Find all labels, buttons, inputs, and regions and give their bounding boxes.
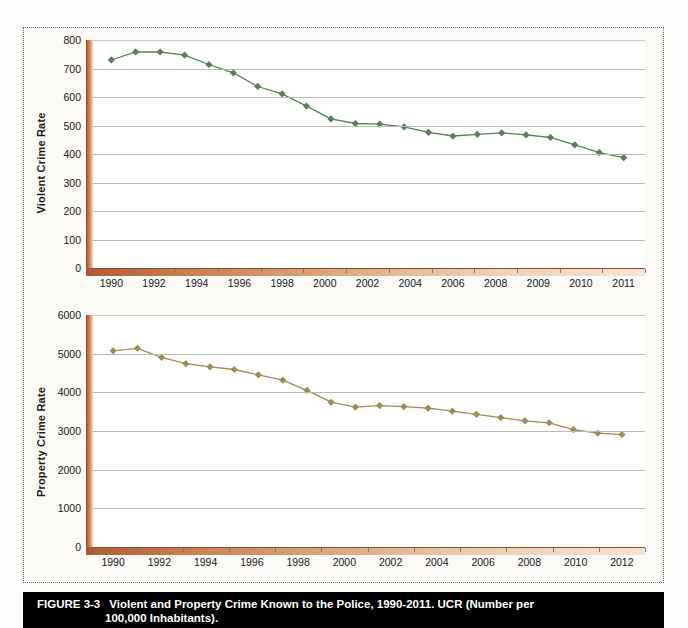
property-y-tick-label: 2000	[58, 464, 81, 476]
violent-data-point	[132, 48, 139, 55]
violent-x-tick-label: 2009	[527, 277, 550, 289]
property-gridline	[90, 315, 645, 316]
property-data-point	[521, 417, 528, 424]
violent-data-point	[254, 83, 261, 90]
violent-gridline	[90, 240, 645, 241]
violent-x-tick-mark	[474, 269, 475, 273]
violent-y-tick-label: 400	[63, 148, 81, 160]
violent-x-tick-label: 1996	[228, 277, 251, 289]
violent-x-tick-labels: 1990199219941996199820002002200420062008…	[90, 277, 645, 293]
property-x-tick-mark	[90, 548, 91, 552]
property-x-tick-label: 1996	[240, 556, 263, 568]
property-x-tick-label: 1998	[286, 556, 309, 568]
violent-crime-chart: Violent Crime Rate 010020030040050060070…	[30, 38, 658, 288]
violent-gridline	[90, 69, 645, 70]
violent-gridline	[90, 154, 645, 155]
violent-x-tick-label: 2010	[569, 277, 592, 289]
property-x-tick-mark	[321, 548, 322, 552]
violent-y-tick-label: 0	[75, 262, 81, 274]
violent-x-tick-label: 2008	[484, 277, 507, 289]
violent-data-point	[425, 129, 432, 136]
figure-number: FIGURE 3-3	[37, 598, 100, 610]
violent-data-point	[327, 115, 334, 122]
property-y-tick-label: 0	[75, 541, 81, 553]
violent-x-tick-mark	[133, 269, 134, 273]
property-x-tick-label: 2008	[518, 556, 541, 568]
property-data-point	[376, 402, 383, 409]
violent-x-tick-mark	[602, 269, 603, 273]
violent-y-tick-label: 300	[63, 177, 81, 189]
property-x-tick-label: 1992	[148, 556, 171, 568]
violent-data-point	[230, 69, 237, 76]
property-x-tick-mark	[553, 548, 554, 552]
figure-page: Violent Crime Rate 010020030040050060070…	[0, 0, 688, 628]
property-data-point	[182, 360, 189, 367]
violent-y-tick-label: 800	[63, 34, 81, 46]
figure-caption: FIGURE 3-3Violent and Property Crime Kno…	[23, 592, 664, 628]
property-data-point	[279, 377, 286, 384]
violent-x-tick-label: 2006	[441, 277, 464, 289]
violent-x-tick-mark	[389, 269, 390, 273]
property-x-tick-mark	[229, 548, 230, 552]
property-y-tick-label: 6000	[58, 309, 81, 321]
property-data-point	[328, 399, 335, 406]
property-x-tick-mark	[460, 548, 461, 552]
property-gridline	[90, 354, 645, 355]
property-gridline	[90, 470, 645, 471]
property-x-tick-mark	[599, 548, 600, 552]
property-data-point	[449, 408, 456, 415]
property-x-tick-label: 2006	[471, 556, 494, 568]
property-data-point	[497, 414, 504, 421]
violent-y-tick-label: 600	[63, 91, 81, 103]
violent-x-tick-label: 2004	[399, 277, 422, 289]
property-x-tick-mark	[645, 548, 646, 552]
property-data-point	[473, 411, 480, 418]
property-x-tick-mark	[368, 548, 369, 552]
property-x-tick-labels: 1990199219941996199820002002200420062008…	[90, 556, 645, 572]
property-y-tick-labels: 0100020003000400050006000	[48, 313, 84, 571]
property-x-tick-mark	[136, 548, 137, 552]
property-data-point	[400, 403, 407, 410]
violent-y-tick-labels: 0100200300400500600700800	[48, 38, 84, 288]
property-y-axis-title-text: Property Crime Rate	[35, 387, 47, 497]
property-data-point	[618, 431, 625, 438]
violent-x-tick-mark	[218, 269, 219, 273]
violent-data-point	[571, 141, 578, 148]
property-x-tick-label: 2010	[564, 556, 587, 568]
property-data-point	[134, 345, 141, 352]
violent-y-axis-spine	[86, 40, 93, 272]
property-gridline	[90, 431, 645, 432]
violent-series-line	[111, 52, 623, 158]
violent-x-tick-mark	[560, 269, 561, 273]
property-y-tick-label: 1000	[58, 502, 81, 514]
violent-data-point	[157, 48, 164, 55]
property-y-tick-label: 4000	[58, 386, 81, 398]
violent-x-tick-label: 1994	[185, 277, 208, 289]
property-y-tick-label: 3000	[58, 425, 81, 437]
property-x-tick-mark	[183, 548, 184, 552]
property-x-tick-label: 2000	[333, 556, 356, 568]
property-data-point	[231, 366, 238, 373]
violent-gridline	[90, 183, 645, 184]
violent-data-point	[498, 129, 505, 136]
property-data-point	[352, 404, 359, 411]
violent-x-tick-mark	[346, 269, 347, 273]
violent-gridline	[90, 40, 645, 41]
violent-y-tick-label: 700	[63, 63, 81, 75]
property-y-axis-spine	[86, 315, 93, 551]
property-crime-chart: Property Crime Rate 01000200030004000500…	[30, 313, 658, 571]
property-plot-area	[90, 315, 645, 547]
violent-x-tick-mark	[645, 269, 646, 273]
violent-x-tick-label: 1998	[270, 277, 293, 289]
violent-x-tick-mark	[303, 269, 304, 273]
figure-caption-line-2: 100,000 Inhabitants).	[37, 611, 654, 625]
property-x-tick-label: 1994	[194, 556, 217, 568]
violent-plot-area	[90, 40, 645, 268]
property-data-point	[424, 405, 431, 412]
property-x-tick-marks	[90, 548, 645, 553]
violent-x-tick-label: 1990	[100, 277, 123, 289]
violent-x-tick-label: 1992	[142, 277, 165, 289]
property-data-point	[255, 371, 262, 378]
violent-x-tick-mark	[517, 269, 518, 273]
figure-caption-text-1: Violent and Property Crime Known to the …	[109, 598, 534, 610]
